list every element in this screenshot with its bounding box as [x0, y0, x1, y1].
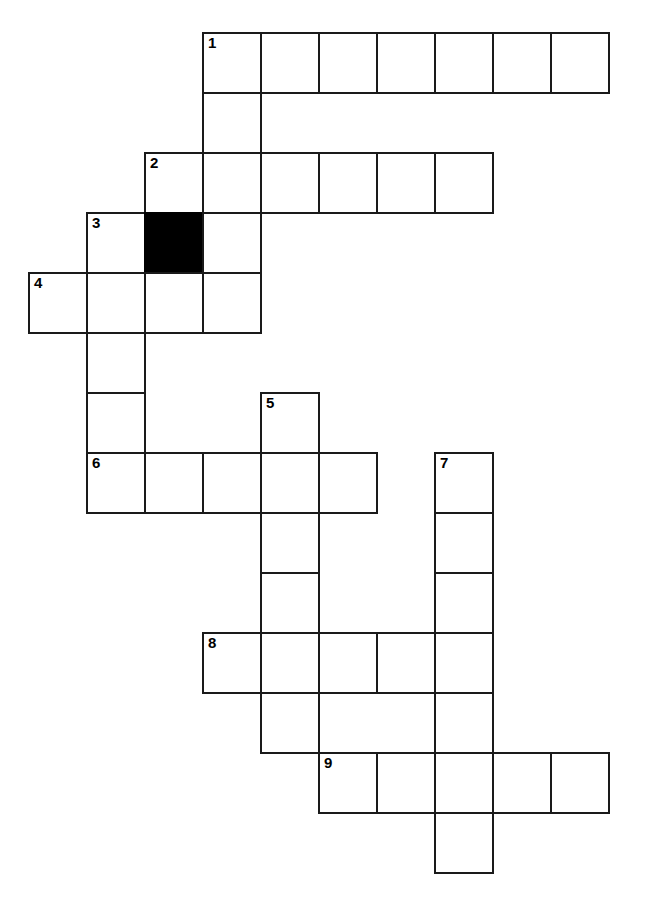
crossword-cell[interactable] — [318, 32, 378, 94]
crossword-cell[interactable] — [434, 692, 494, 754]
crossword-cell[interactable] — [492, 752, 552, 814]
crossword-cell[interactable] — [260, 692, 320, 754]
crossword-cell[interactable] — [202, 272, 262, 334]
crossword-cell[interactable] — [202, 152, 262, 214]
crossword-cell[interactable] — [434, 32, 494, 94]
crossword-cell[interactable] — [318, 632, 378, 694]
crossword-cell[interactable] — [144, 272, 204, 334]
numbered-cell[interactable]: 2 — [144, 152, 204, 214]
crossword-cell[interactable] — [260, 632, 320, 694]
crossword-cell[interactable] — [318, 152, 378, 214]
crossword-cell[interactable] — [144, 452, 204, 514]
cell-number-label: 2 — [150, 155, 158, 171]
crossword-cell[interactable] — [434, 572, 494, 634]
crossword-cell[interactable] — [434, 512, 494, 574]
crossword-cell[interactable] — [434, 632, 494, 694]
crossword-cell[interactable] — [260, 512, 320, 574]
crossword-cell[interactable] — [86, 272, 146, 334]
crossword-cell[interactable] — [550, 752, 610, 814]
crossword-cell[interactable] — [260, 152, 320, 214]
numbered-cell[interactable]: 9 — [318, 752, 378, 814]
cell-number-label: 8 — [208, 635, 216, 651]
crossword-cell[interactable] — [376, 752, 436, 814]
crossword-cell[interactable] — [318, 452, 378, 514]
crossword-cell[interactable] — [260, 572, 320, 634]
crossword-cell[interactable] — [86, 332, 146, 394]
numbered-cell[interactable]: 6 — [86, 452, 146, 514]
numbered-cell[interactable]: 7 — [434, 452, 494, 514]
crossword-puzzle: 123456789 — [0, 0, 646, 912]
crossword-cell[interactable] — [550, 32, 610, 94]
cell-number-label: 4 — [34, 275, 42, 291]
crossword-cell[interactable] — [376, 632, 436, 694]
crossword-cell[interactable] — [434, 812, 494, 874]
cell-number-label: 1 — [208, 35, 216, 51]
crossword-cell[interactable] — [202, 92, 262, 154]
cell-number-label: 5 — [266, 395, 274, 411]
crossword-cell[interactable] — [434, 152, 494, 214]
numbered-cell[interactable]: 5 — [260, 392, 320, 454]
cell-number-label: 9 — [324, 755, 332, 771]
crossword-cell[interactable] — [202, 212, 262, 274]
numbered-cell[interactable]: 8 — [202, 632, 262, 694]
numbered-cell[interactable]: 4 — [28, 272, 88, 334]
numbered-cell[interactable]: 3 — [86, 212, 146, 274]
numbered-cell[interactable]: 1 — [202, 32, 262, 94]
crossword-cell[interactable] — [202, 452, 262, 514]
blocked-cell — [144, 212, 204, 274]
crossword-cell[interactable] — [86, 392, 146, 454]
crossword-cell[interactable] — [376, 152, 436, 214]
crossword-cell[interactable] — [260, 452, 320, 514]
cell-number-label: 6 — [92, 455, 100, 471]
cell-number-label: 3 — [92, 215, 100, 231]
crossword-cell[interactable] — [492, 32, 552, 94]
crossword-cell[interactable] — [434, 752, 494, 814]
crossword-cell[interactable] — [376, 32, 436, 94]
crossword-cell[interactable] — [260, 32, 320, 94]
cell-number-label: 7 — [440, 455, 448, 471]
